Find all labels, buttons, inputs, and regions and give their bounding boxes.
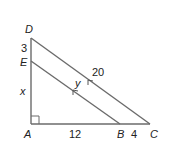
geometry-diagram: D E A B C 3 x 12 4 20 y: [0, 0, 172, 152]
point-label-E: E: [20, 56, 28, 68]
point-label-A: A: [23, 128, 31, 140]
measure-AB: 12: [69, 128, 81, 140]
measure-DE: 3: [21, 42, 27, 54]
point-label-B: B: [117, 128, 124, 140]
point-label-D: D: [25, 23, 33, 35]
measure-EA: x: [19, 85, 26, 97]
point-label-C: C: [150, 128, 158, 140]
measure-DC: 20: [92, 66, 104, 78]
measure-BC: 4: [131, 128, 137, 140]
right-angle-marker: [31, 116, 39, 124]
measure-EB: y: [74, 77, 82, 89]
